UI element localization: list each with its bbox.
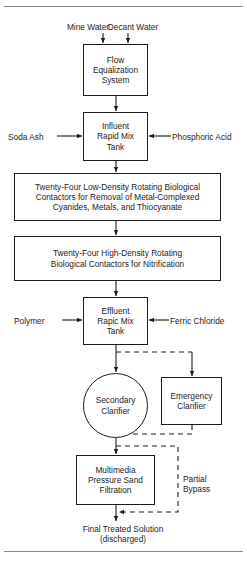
node-line: System (93, 75, 138, 85)
process-flow-diagram: Flow Equalization System Influent Rapid … (0, 0, 247, 566)
node-line: Emergency (171, 391, 213, 401)
node-line: Secondary (96, 395, 136, 405)
label-decant-water: Decant Water (98, 22, 168, 32)
node-line: Cyanides, Metals, and Thiocyanate (35, 202, 200, 212)
node-line: Effluent (97, 306, 133, 316)
label-line: Partial (183, 474, 239, 484)
node-line: Clarifier (96, 406, 136, 416)
node-rbc-low-density: Twenty-Four Low-Density Rotating Biologi… (14, 173, 221, 221)
node-multimedia-pressure-sand-filtration: Multimedia Pressure Sand Filtration (76, 455, 155, 505)
node-line: Rapic Mix (97, 316, 133, 326)
node-flow-equalization-system: Flow Equalization System (83, 44, 148, 96)
node-line: Multimedia (88, 465, 143, 475)
label-line: Final Treated Solution (43, 524, 203, 534)
node-line: Twenty-Four High-Density Rotating (51, 248, 184, 258)
node-line: Tank (97, 326, 133, 336)
node-influent-rapid-mix-tank: Influent Rapid Mix Tank (83, 112, 148, 161)
label-soda-ash: Soda Ash (8, 132, 56, 142)
label-final-treated-solution: Final Treated Solution (discharged) (43, 524, 203, 544)
node-secondary-clarifier: Secondary Clarifier (83, 373, 148, 438)
node-rbc-high-density: Twenty-Four High-Density Rotating Biolog… (14, 236, 221, 281)
label-line: (discharged) (43, 534, 203, 544)
node-emergency-clarifier: Emergency Clarifier (161, 377, 222, 425)
node-line: Influent (97, 121, 134, 131)
node-line: Rapid Mix (97, 131, 134, 141)
label-polymer: Polymer (14, 316, 62, 326)
node-line: Filtration (88, 485, 143, 495)
node-line: Clarifier (171, 401, 213, 411)
node-line: Tank (97, 142, 134, 152)
node-line: Pressure Sand (88, 475, 143, 485)
label-line: Bypass (183, 484, 239, 494)
node-line: Biological Contactors for Nitrification (51, 259, 184, 269)
node-line: Flow (93, 55, 138, 65)
label-partial-bypass: Partial Bypass (183, 474, 239, 494)
node-line: Contactors for Removal of Metal-Complexe… (35, 192, 200, 202)
node-effluent-rapid-mix-tank: Effluent Rapic Mix Tank (83, 297, 148, 345)
node-line: Equalization (93, 65, 138, 75)
node-line: Twenty-Four Low-Density Rotating Biologi… (35, 182, 200, 192)
label-phosphoric-acid: Phosphoric Acid (172, 132, 246, 142)
label-ferric-chloride: Ferric Chloride (170, 316, 240, 326)
